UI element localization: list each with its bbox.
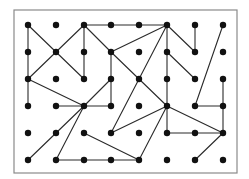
grid-node [25,130,31,136]
grid-node [25,157,31,163]
grid-node [136,157,142,163]
grid-node [220,22,226,28]
grid-node [220,103,226,109]
grid-node [53,157,59,163]
edge [167,106,223,133]
grid-node [53,130,59,136]
edge [111,106,167,133]
edge [28,79,84,106]
grid-node [108,49,114,55]
edge [56,52,84,79]
grid-node [81,49,87,55]
grid-node [25,76,31,82]
grid-node [108,157,114,163]
grid-node [220,49,226,55]
edge [167,25,195,52]
grid-node [25,22,31,28]
edge [84,25,111,52]
grid-node [25,103,31,109]
edge [28,133,56,160]
edge [111,52,139,79]
grid-node [164,103,170,109]
grid-node [136,130,142,136]
grid-node [81,130,87,136]
grid-node [53,22,59,28]
grid-node [53,76,59,82]
grid-node [108,130,114,136]
grid-node [53,103,59,109]
grid-node [192,157,198,163]
edge [28,25,56,52]
grid-node [136,103,142,109]
grid-node [53,49,59,55]
grid-node [164,157,170,163]
edge [84,133,139,160]
grid-node [108,22,114,28]
grid-node [81,157,87,163]
edge [84,79,111,106]
edge [139,106,167,160]
grid-node [136,76,142,82]
edge [56,106,84,160]
grid-node [192,76,198,82]
edge [195,133,223,160]
grid-node [108,76,114,82]
grid-node [81,76,87,82]
grid-node [136,49,142,55]
grid-node [192,130,198,136]
edge [139,79,167,106]
grid-node [192,103,198,109]
grid-node [192,22,198,28]
grid-node [192,49,198,55]
grid-node [81,103,87,109]
dot-grid-diagram [0,0,249,179]
grid-node [220,157,226,163]
grid-node [164,76,170,82]
grid-node [164,49,170,55]
edge-layer [28,25,223,160]
edge [111,79,139,133]
edge [195,25,223,106]
grid-node [108,103,114,109]
edge [56,25,84,52]
grid-node [81,22,87,28]
grid-node [164,22,170,28]
edge [111,25,167,52]
edge [167,52,195,79]
edge [139,25,167,79]
grid-node [220,76,226,82]
grid-node [164,130,170,136]
grid-node [136,22,142,28]
edge [56,106,84,133]
grid-node [220,130,226,136]
grid-node [25,49,31,55]
diagram-frame [14,10,237,173]
edge [28,52,56,79]
